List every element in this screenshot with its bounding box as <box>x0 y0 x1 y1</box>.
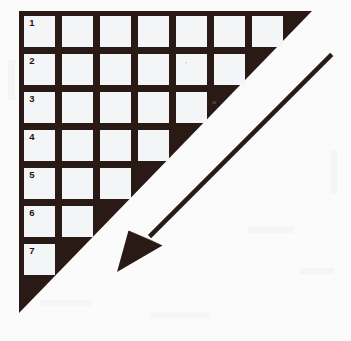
triangle-grid-arrow-diagram: 1 2 3 4 5 6 7 o ' <box>0 0 351 341</box>
row-number-label: 2 <box>29 55 34 66</box>
grid-row <box>24 92 207 123</box>
grid-cell[interactable] <box>62 168 93 199</box>
grid-cell[interactable] <box>138 54 169 85</box>
grid-cell[interactable] <box>138 16 169 47</box>
row-number-label: 3 <box>29 93 34 104</box>
grid-cell[interactable] <box>176 16 207 47</box>
grid-cell[interactable] <box>100 92 131 123</box>
figure-canvas: 1 2 3 4 5 6 7 o ' <box>0 0 351 341</box>
grid-cell[interactable] <box>138 92 169 123</box>
row-number-label: 4 <box>29 131 35 142</box>
grid-cell[interactable] <box>214 16 245 47</box>
grid-cell[interactable] <box>176 92 207 123</box>
grid-cell[interactable] <box>100 168 131 199</box>
grid-cell[interactable] <box>138 130 169 161</box>
grid-cell[interactable] <box>62 92 93 123</box>
grid-cell[interactable] <box>62 16 93 47</box>
annotation-mark: o <box>212 98 216 106</box>
grid-cell[interactable] <box>176 54 207 85</box>
grid-row <box>24 168 131 199</box>
grid-cell[interactable] <box>62 130 93 161</box>
grid-cell[interactable] <box>62 54 93 85</box>
grid-cell[interactable] <box>100 16 131 47</box>
grid-cell[interactable] <box>100 54 131 85</box>
grid-cell[interactable] <box>100 130 131 161</box>
grid-cell[interactable] <box>62 206 93 237</box>
grid-row <box>24 16 283 47</box>
annotation-mark: ' <box>185 60 186 68</box>
grid-cell[interactable] <box>252 16 283 47</box>
row-number-label: 1 <box>29 17 35 28</box>
row-number-label: 7 <box>29 245 34 256</box>
grid-cell[interactable] <box>214 54 245 85</box>
row-number-label: 5 <box>29 169 35 180</box>
row-number-label: 6 <box>29 207 34 218</box>
